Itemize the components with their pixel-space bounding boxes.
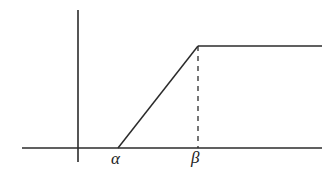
alpha-tick-label: α (111, 150, 120, 167)
ramp-function-plot (0, 0, 335, 178)
ramp-segment (118, 46, 198, 148)
beta-tick-label: β (191, 149, 199, 166)
figure-canvas: α β (0, 0, 335, 178)
